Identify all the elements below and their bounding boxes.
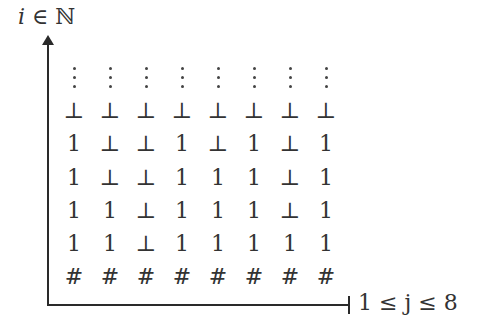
grid-cell: 1 bbox=[92, 232, 128, 256]
y-axis-relation: ∈ bbox=[25, 4, 55, 29]
grid-cell: 1 bbox=[56, 232, 92, 256]
grid-cell: # bbox=[56, 265, 92, 289]
grid-cell: 1 bbox=[272, 232, 308, 256]
grid-cell: 1 bbox=[56, 199, 92, 223]
grid-cell: 1 bbox=[164, 166, 200, 190]
vertical-ellipsis-icon bbox=[164, 67, 200, 94]
grid-cell: # bbox=[164, 265, 200, 289]
grid-cell: ⊥ bbox=[128, 132, 164, 156]
vertical-ellipsis-icon bbox=[200, 67, 236, 94]
grid-cell: ⊥ bbox=[128, 199, 164, 223]
grid-cell: ⊥ bbox=[200, 132, 236, 156]
y-axis-label: i ∈ ℕ bbox=[18, 4, 75, 29]
grid-cell: 1 bbox=[200, 166, 236, 190]
grid-cell: ⊥ bbox=[128, 232, 164, 256]
grid-cell: 1 bbox=[200, 232, 236, 256]
y-axis-set: ℕ bbox=[55, 4, 75, 29]
vertical-ellipsis-icon bbox=[56, 67, 92, 94]
grid-cell: 1 bbox=[56, 132, 92, 156]
vertical-ellipsis-icon bbox=[308, 67, 344, 94]
grid-cell: ⊥ bbox=[164, 99, 200, 123]
grid-cell: 1 bbox=[164, 199, 200, 223]
grid-cell: # bbox=[272, 265, 308, 289]
grid-cell: ⊥ bbox=[200, 99, 236, 123]
x-axis-line bbox=[47, 304, 349, 306]
vertical-ellipsis-icon bbox=[236, 67, 272, 94]
y-axis-line bbox=[47, 42, 49, 306]
grid-cell: # bbox=[308, 265, 344, 289]
grid-cell: ⊥ bbox=[272, 199, 308, 223]
grid-cell: 1 bbox=[92, 199, 128, 223]
grid-cell: ⊥ bbox=[92, 132, 128, 156]
grid-cell: ⊥ bbox=[272, 166, 308, 190]
grid-cell: # bbox=[92, 265, 128, 289]
x-axis-end-tick bbox=[348, 296, 350, 314]
grid-cell: 1 bbox=[236, 199, 272, 223]
grid-cell: ⊥ bbox=[272, 132, 308, 156]
grid-cell: 1 bbox=[308, 132, 344, 156]
grid-cell: ⊥ bbox=[236, 99, 272, 123]
grid-cell: 1 bbox=[236, 132, 272, 156]
grid-cell: 1 bbox=[164, 132, 200, 156]
grid-cell: ⊥ bbox=[272, 99, 308, 123]
grid-cell: 1 bbox=[56, 166, 92, 190]
vertical-ellipsis-icon bbox=[272, 67, 308, 94]
grid-cell: # bbox=[236, 265, 272, 289]
vertical-ellipsis-icon bbox=[128, 67, 164, 94]
grid-cell: 1 bbox=[308, 232, 344, 256]
grid-cell: # bbox=[200, 265, 236, 289]
grid-cell: # bbox=[128, 265, 164, 289]
vertical-ellipsis-icon bbox=[92, 67, 128, 94]
y-axis-variable: i bbox=[18, 4, 25, 29]
grid-cell: ⊥ bbox=[128, 99, 164, 123]
grid-cell: 1 bbox=[308, 199, 344, 223]
grid-cell: ⊥ bbox=[92, 99, 128, 123]
grid-cell: 1 bbox=[236, 166, 272, 190]
grid-cell: ⊥ bbox=[92, 166, 128, 190]
grid-cell: ⊥ bbox=[56, 99, 92, 123]
grid-cell: ⊥ bbox=[128, 166, 164, 190]
grid-cell: 1 bbox=[308, 166, 344, 190]
grid-cell: 1 bbox=[236, 232, 272, 256]
x-axis-label: 1 ≤ j ≤ 8 bbox=[358, 290, 458, 315]
grid-cell: ⊥ bbox=[308, 99, 344, 123]
grid-cell: 1 bbox=[200, 199, 236, 223]
grid-cell: 1 bbox=[164, 232, 200, 256]
